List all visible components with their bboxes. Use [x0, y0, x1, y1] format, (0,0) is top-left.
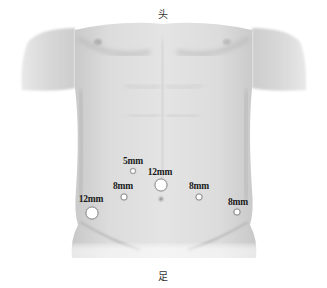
torso-illustration	[0, 0, 327, 288]
port-marker-12mm-umbilical	[155, 179, 168, 192]
port-marker-8mm-left	[121, 194, 128, 201]
torso	[72, 23, 257, 258]
port-label-5mm: 5mm	[123, 156, 143, 166]
port-marker-8mm-far-right	[234, 209, 241, 216]
port-label-12mm-far-left: 12mm	[79, 194, 104, 204]
port-label-8mm-far-right: 8mm	[228, 197, 248, 207]
port-marker-8mm-right	[196, 194, 203, 201]
port-label-8mm-left: 8mm	[113, 181, 133, 191]
port-marker-5mm	[130, 168, 136, 174]
navel	[157, 195, 165, 203]
port-label-12mm-umbilical: 12mm	[148, 167, 173, 177]
head-direction-label: 头	[158, 6, 168, 21]
right-arm	[252, 28, 306, 91]
left-arm	[22, 28, 75, 91]
foot-direction-label: 足	[158, 268, 168, 283]
port-label-8mm-right: 8mm	[189, 181, 209, 191]
port-marker-12mm-far-left	[86, 207, 99, 220]
